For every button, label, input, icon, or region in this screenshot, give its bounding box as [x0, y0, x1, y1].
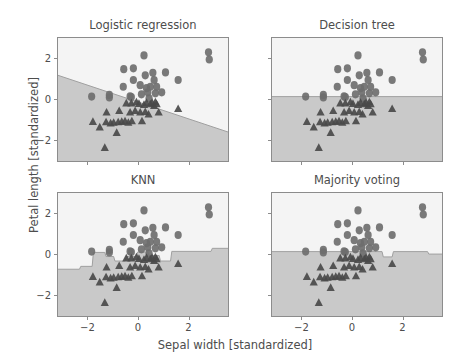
y-axis-tick — [54, 295, 57, 296]
y-axis-tick-label: 2 — [27, 52, 51, 63]
data-point-circle — [372, 88, 379, 96]
data-point-circle — [106, 91, 113, 99]
data-point-circle — [344, 76, 351, 84]
data-point-circle — [138, 245, 145, 253]
data-point-circle — [120, 220, 127, 228]
data-point-circle — [137, 81, 144, 89]
data-point-circle — [175, 231, 182, 239]
data-point-circle — [376, 223, 383, 231]
panel-title: Majority voting — [271, 173, 443, 187]
plot-area — [271, 192, 443, 317]
x-axis-tick — [352, 162, 353, 165]
x-axis-tick — [301, 162, 302, 165]
data-point-circle — [334, 83, 341, 91]
data-point-circle — [147, 238, 154, 246]
data-point-triangle — [174, 104, 182, 112]
data-point-circle — [354, 206, 361, 214]
data-point-circle — [206, 55, 213, 63]
y-axis-tick — [268, 295, 271, 296]
data-point-circle — [88, 93, 95, 101]
y-axis-label: Petal length [standardized] — [27, 35, 41, 275]
x-axis-tick-label: 0 — [135, 322, 141, 333]
data-point-circle — [162, 68, 169, 76]
plot-area — [57, 192, 229, 317]
y-axis-tick — [268, 213, 271, 214]
x-axis-tick — [403, 162, 404, 165]
data-point-circle — [142, 71, 149, 79]
data-point-circle — [140, 206, 147, 214]
data-point-circle — [334, 238, 341, 246]
data-point-circle — [361, 83, 368, 91]
y-axis-tick — [54, 254, 57, 255]
data-point-circle — [361, 238, 368, 246]
data-point-circle — [352, 90, 359, 98]
panel-title: Decision tree — [271, 18, 443, 32]
data-point-circle — [420, 210, 427, 218]
y-axis-tick-label: 2 — [27, 207, 51, 218]
data-point-circle — [147, 83, 154, 91]
data-point-circle — [420, 55, 427, 63]
data-point-circle — [158, 88, 165, 96]
data-point-circle — [120, 238, 127, 246]
data-point-circle — [130, 219, 137, 227]
x-axis-label: Sepal width [standardized] — [0, 338, 470, 352]
data-point-circle — [137, 236, 144, 244]
data-point-circle — [389, 231, 396, 239]
y-axis-tick — [54, 58, 57, 59]
data-point-circle — [142, 226, 149, 234]
data-point-circle — [334, 220, 341, 228]
data-point-circle — [363, 69, 370, 77]
panel-title: KNN — [57, 173, 229, 187]
data-point-circle — [352, 245, 359, 253]
data-point-circle — [351, 81, 358, 89]
y-axis-tick — [268, 58, 271, 59]
y-axis-tick — [268, 140, 271, 141]
data-point-circle — [356, 226, 363, 234]
y-axis-tick-label: −2 — [27, 289, 51, 300]
data-point-circle — [130, 231, 137, 239]
y-axis-tick — [54, 99, 57, 100]
panel-logistic-regression: Logistic regression −202 — [57, 37, 229, 162]
data-point-circle — [356, 71, 363, 79]
figure-canvas: Petal length [standardized] Sepal width … — [0, 0, 470, 363]
data-point-circle — [162, 223, 169, 231]
x-axis-tick — [87, 317, 88, 320]
data-point-circle — [140, 51, 147, 59]
y-axis-tick-label: 0 — [27, 248, 51, 259]
data-point-circle — [419, 203, 426, 211]
x-axis-tick-label: 2 — [399, 322, 405, 333]
data-point-circle — [158, 243, 165, 251]
data-point-circle — [320, 246, 327, 254]
data-point-circle — [206, 210, 213, 218]
data-point-circle — [389, 76, 396, 84]
data-point-circle — [149, 69, 156, 77]
data-point-circle — [205, 203, 212, 211]
x-axis-tick — [189, 162, 190, 165]
panel-knn: KNN −202−202 — [57, 192, 229, 317]
data-point-circle — [419, 48, 426, 56]
data-point-circle — [302, 248, 309, 256]
y-axis-tick — [268, 254, 271, 255]
data-point-circle — [175, 76, 182, 84]
data-point-circle — [376, 68, 383, 76]
x-axis-tick-label: −2 — [294, 322, 309, 333]
y-axis-tick — [268, 99, 271, 100]
plot-area — [271, 37, 443, 162]
data-point-circle — [120, 65, 127, 73]
x-axis-tick — [189, 317, 190, 320]
data-point-circle — [106, 246, 113, 254]
data-point-circle — [320, 91, 327, 99]
x-axis-tick — [138, 317, 139, 320]
data-point-circle — [130, 76, 137, 84]
y-axis-tick-label: 0 — [27, 93, 51, 104]
data-point-circle — [130, 64, 137, 72]
plot-area — [57, 37, 229, 162]
data-point-circle — [334, 65, 341, 73]
x-axis-tick — [87, 162, 88, 165]
data-point-circle — [205, 48, 212, 56]
y-axis-tick — [54, 213, 57, 214]
data-point-circle — [363, 224, 370, 232]
panel-title: Logistic regression — [57, 18, 229, 32]
data-point-circle — [88, 248, 95, 256]
x-axis-tick-label: 2 — [185, 322, 191, 333]
